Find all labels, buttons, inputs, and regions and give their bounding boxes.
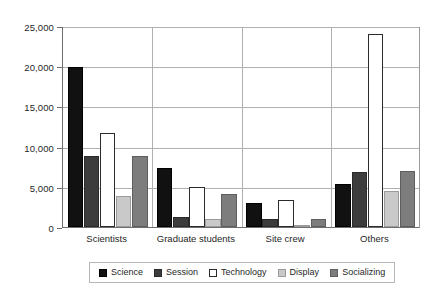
legend-item: Science <box>99 268 143 277</box>
bar <box>352 172 368 227</box>
bar <box>68 67 84 227</box>
y-tick-label: 10,000 <box>24 142 54 153</box>
bar <box>84 156 100 227</box>
y-tick-mark <box>57 228 62 229</box>
x-tick-label: Graduate students <box>157 233 235 244</box>
x-tick-label: Site crew <box>266 233 305 244</box>
bar <box>157 168 173 227</box>
bar <box>205 219 221 227</box>
legend-item: Display <box>278 268 320 277</box>
y-tick-label: 25,000 <box>24 22 54 33</box>
group-separator <box>331 27 332 227</box>
bar <box>246 203 262 227</box>
bar <box>278 200 294 227</box>
bar <box>311 219 327 227</box>
legend-swatch-icon <box>278 269 286 277</box>
bar <box>262 219 278 227</box>
x-tick-label: Scientists <box>86 233 127 244</box>
legend-item: Socializing <box>330 268 385 277</box>
plot-area <box>62 27 419 228</box>
y-tick-label: 15,000 <box>24 102 54 113</box>
y-tick-label: 5,000 <box>30 182 54 193</box>
bar <box>335 184 351 227</box>
legend-swatch-icon <box>330 269 338 277</box>
legend-label: Technology <box>221 268 267 277</box>
bar <box>173 217 189 227</box>
bar-group <box>157 27 237 227</box>
bar-group <box>68 27 148 227</box>
y-tick-label: 0 <box>49 223 54 234</box>
group-separator <box>152 27 153 227</box>
legend-item: Session <box>154 268 198 277</box>
bar <box>221 194 237 227</box>
bar <box>189 187 205 227</box>
y-tick-label: 20,000 <box>24 62 54 73</box>
bar <box>384 191 400 227</box>
legend-label: Session <box>166 268 198 277</box>
bar-group <box>246 27 326 227</box>
legend-label: Socializing <box>342 268 385 277</box>
plot-frame-right-border <box>419 27 420 228</box>
legend-swatch-icon <box>209 269 217 277</box>
legend-swatch-icon <box>99 269 107 277</box>
group-separator <box>242 27 243 227</box>
bar <box>116 196 132 227</box>
legend-item: Technology <box>209 268 267 277</box>
bar <box>368 34 384 227</box>
bar-group <box>335 27 415 227</box>
legend-swatch-icon <box>154 269 162 277</box>
chart-legend: ScienceSessionTechnologyDisplaySocializi… <box>89 262 395 283</box>
bar-chart: 05,00010,00015,00020,00025,000 Scientist… <box>0 0 438 296</box>
bar <box>100 133 116 227</box>
legend-label: Display <box>290 268 320 277</box>
bar <box>400 171 416 227</box>
bar <box>132 156 148 227</box>
x-tick-label: Others <box>360 233 389 244</box>
legend-label: Science <box>111 268 143 277</box>
bar <box>294 225 310 227</box>
